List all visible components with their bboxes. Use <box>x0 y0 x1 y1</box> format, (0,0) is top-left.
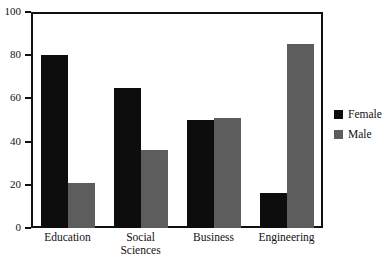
y-axis-tick-label: 80 <box>10 48 21 60</box>
chart-legend: FemaleMale <box>334 106 392 146</box>
legend-swatch-male <box>334 130 343 139</box>
y-axis-tick-label: 100 <box>5 5 22 17</box>
bar-chart-figure: 020406080100 EducationSocial SciencesBus… <box>0 0 392 257</box>
y-axis: 020406080100 <box>0 0 31 257</box>
legend-swatch-female <box>334 110 343 119</box>
legend-item-female: Female <box>334 106 392 123</box>
y-axis-tick-label: 40 <box>10 135 21 147</box>
x-axis-label: Engineering <box>239 231 335 244</box>
legend-label: Male <box>348 128 372 141</box>
plot-area <box>31 12 323 228</box>
y-axis-tick-label: 60 <box>10 91 21 103</box>
x-axis-labels: EducationSocial SciencesBusinessEngineer… <box>31 231 323 257</box>
legend-item-male: Male <box>334 126 392 143</box>
legend-label: Female <box>348 108 382 121</box>
y-axis-tick-label: 20 <box>10 178 21 190</box>
